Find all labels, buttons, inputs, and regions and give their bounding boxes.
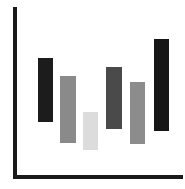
y-axis — [13, 7, 17, 179]
floating-bar-chart — [0, 0, 185, 189]
bar-4 — [106, 67, 122, 129]
bar-2 — [60, 76, 76, 143]
bar-3 — [83, 112, 98, 150]
bar-6 — [154, 39, 169, 131]
x-axis — [13, 175, 183, 179]
bar-1 — [38, 58, 53, 122]
bar-5 — [130, 82, 145, 144]
